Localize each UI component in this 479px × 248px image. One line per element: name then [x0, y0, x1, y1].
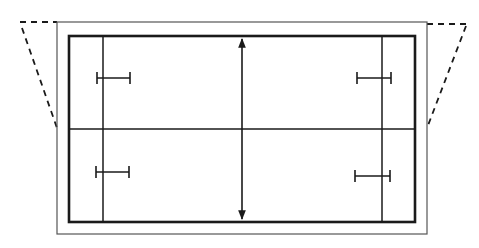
i-bar-bottom-left	[96, 166, 129, 178]
i-bar-top-left	[97, 72, 130, 84]
i-bar-top-right	[357, 72, 391, 84]
dashed-projection-left	[20, 22, 57, 128]
i-bar-bottom-right	[355, 170, 390, 182]
dashed-projection-right	[427, 24, 466, 128]
diagram-canvas	[0, 0, 479, 248]
